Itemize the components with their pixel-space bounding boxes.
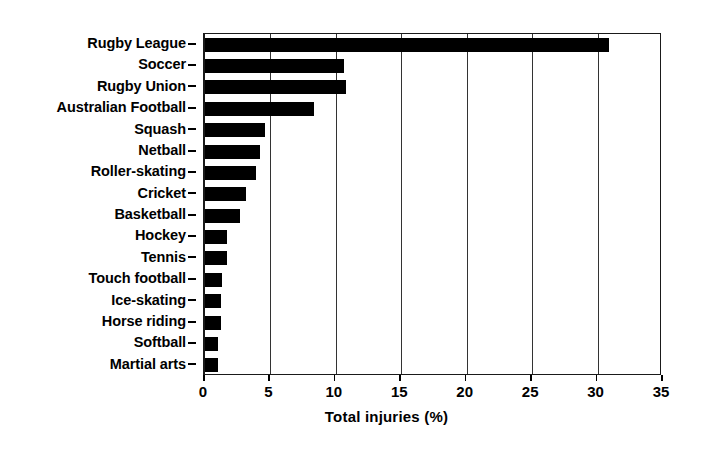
y-axis-tick-mark (188, 128, 196, 130)
bar (205, 38, 609, 52)
x-axis-tick-label: 10 (326, 383, 343, 400)
y-axis-tick-mark (188, 278, 196, 280)
bar (205, 337, 218, 351)
bar (205, 358, 218, 372)
bar (205, 187, 246, 201)
y-axis-tick-label: Rugby League (87, 33, 186, 54)
x-axis-tick-label: 20 (456, 383, 473, 400)
x-axis: 05101520253035 (203, 375, 661, 405)
y-axis-tick-label: Netball (138, 140, 186, 161)
y-axis-tick-label: Softball (134, 332, 186, 353)
bar (205, 59, 344, 73)
y-axis-tick-label: Hockey (135, 225, 186, 246)
y-axis-tick-label: Touch football (89, 268, 186, 289)
bar (205, 145, 260, 159)
y-axis-tick-mark (188, 64, 196, 66)
bar (205, 102, 314, 116)
x-axis-tick-mark (465, 375, 467, 381)
x-axis-title-text: Total injuries (%) (325, 408, 448, 425)
bar (205, 166, 256, 180)
y-axis-tick-mark (188, 85, 196, 87)
y-axis-tick-label: Roller-skating (91, 161, 186, 182)
x-axis-tick-mark (661, 375, 663, 381)
y-axis-tick-mark (188, 299, 196, 301)
y-axis-tick-label: Martial arts (110, 354, 186, 375)
y-axis-tick-label: Soccer (138, 54, 186, 75)
x-axis-tick-label: 5 (264, 383, 272, 400)
chart-container: Rugby LeagueSoccerRugby UnionAustralian … (0, 0, 705, 464)
y-axis-tick-mark (188, 171, 196, 173)
x-axis-tick-mark (334, 375, 336, 381)
gridline-30 (598, 34, 599, 374)
x-axis-tick-mark (268, 375, 270, 381)
y-axis-tick-label: Horse riding (102, 311, 186, 332)
bar (205, 80, 346, 94)
gridline-25 (532, 34, 533, 374)
bar (205, 273, 222, 287)
x-axis-tick-mark (399, 375, 401, 381)
x-axis-tick-mark (596, 375, 598, 381)
y-axis-tick-mark (188, 235, 196, 237)
y-axis-tick-mark (188, 214, 196, 216)
y-axis-tick-mark (188, 342, 196, 344)
y-axis-tick-mark (188, 321, 196, 323)
bar (205, 251, 227, 265)
bar (205, 294, 221, 308)
x-axis-tick-label: 35 (653, 383, 670, 400)
y-axis-category-labels: Rugby LeagueSoccerRugby UnionAustralian … (0, 33, 196, 375)
y-axis-tick-label: Ice-skating (111, 290, 186, 311)
bar (205, 230, 227, 244)
y-axis-tick-label: Basketball (114, 204, 186, 225)
x-axis-tick-label: 15 (391, 383, 408, 400)
y-axis-tick-label: Tennis (141, 247, 186, 268)
y-axis-tick-label: Rugby Union (97, 76, 186, 97)
y-axis-tick-mark (188, 256, 196, 258)
y-axis-tick-mark (188, 150, 196, 152)
plot-area (203, 33, 661, 375)
bar (205, 316, 221, 330)
y-axis-tick-mark (188, 192, 196, 194)
y-axis-tick-label: Cricket (138, 183, 186, 204)
bar (205, 209, 240, 223)
y-axis-tick-label: Squash (134, 119, 186, 140)
x-axis-tick-label: 30 (587, 383, 604, 400)
x-axis-tick-mark (530, 375, 532, 381)
y-axis-tick-mark (188, 43, 196, 45)
gridline-15 (401, 34, 402, 374)
x-axis-tick-label: 25 (522, 383, 539, 400)
x-axis-tick-mark (203, 375, 205, 381)
bar (205, 123, 265, 137)
y-axis-tick-mark (188, 363, 196, 365)
x-axis-title: Total injuries (%) (0, 408, 705, 425)
gridline-20 (467, 34, 468, 374)
y-axis-tick-mark (188, 107, 196, 109)
x-axis-tick-label: 0 (199, 383, 207, 400)
y-axis-tick-label: Australian Football (57, 97, 186, 118)
